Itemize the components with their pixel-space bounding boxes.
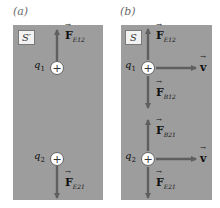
plus-icon: + [52, 62, 61, 75]
charge-label-q1-a: q1 [34, 59, 45, 73]
plus-icon: + [143, 62, 152, 75]
plus-icon: + [52, 153, 61, 166]
velocity-label-q2: v [200, 152, 206, 165]
charge-label-q2-b: q2 [125, 150, 136, 164]
charge-label-q2-a: q2 [34, 150, 45, 164]
force-label-fb21-b: FB21 [156, 124, 176, 138]
diagram-graphics: + + + + [0, 0, 220, 208]
force-label-fe12-a: FE12 [65, 29, 85, 43]
plus-icon: + [143, 153, 152, 166]
charge-label-q1-b: q1 [125, 59, 136, 73]
velocity-label-q1: v [200, 61, 206, 74]
force-label-fe12-b: FE12 [156, 29, 176, 43]
force-label-fe21-a: FE21 [65, 176, 85, 190]
force-label-fe21-b: FE21 [156, 176, 176, 190]
force-label-fb12-b: FB12 [156, 86, 176, 100]
